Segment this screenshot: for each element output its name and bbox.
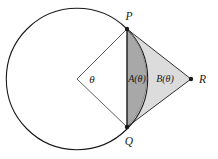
vertex-dot-r <box>189 77 193 81</box>
angle-label-theta: θ <box>89 73 95 85</box>
region-label-a: A(θ) <box>127 73 146 85</box>
radius-OP <box>77 29 127 79</box>
point-label-r: R <box>198 73 206 85</box>
point-label-p: P <box>124 10 132 22</box>
geometry-figure-container: P Q R θ A(θ) B(θ) <box>0 0 218 159</box>
radius-OQ <box>77 79 127 127</box>
point-label-q: Q <box>125 135 134 147</box>
vertex-dot-q <box>125 125 129 129</box>
geometry-diagram: P Q R θ A(θ) B(θ) <box>0 0 218 159</box>
vertex-dot-p <box>125 27 129 31</box>
region-label-b: B(θ) <box>156 73 174 85</box>
